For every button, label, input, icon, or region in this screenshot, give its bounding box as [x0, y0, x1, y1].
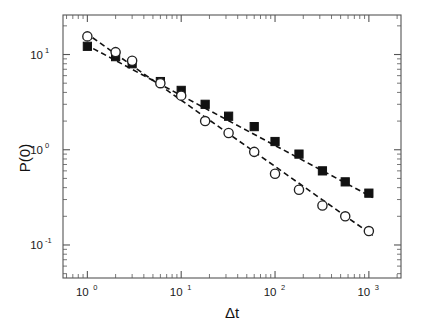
- x-tick-label-2-exponent: 2: [281, 283, 285, 292]
- x-tick-label-1-exponent: 1: [187, 283, 191, 292]
- x-tick-label-3-exponent: 3: [375, 283, 379, 292]
- marker-square: [341, 178, 349, 186]
- marker-square: [271, 137, 279, 145]
- y-tick-label-0-mantissa: 10: [30, 49, 43, 61]
- marker-square: [318, 167, 326, 175]
- x-tick-label-0-exponent: 0: [93, 283, 97, 292]
- marker-square: [201, 100, 209, 108]
- marker-circle: [111, 48, 120, 57]
- marker-circle: [156, 79, 165, 88]
- marker-circle: [177, 91, 186, 100]
- plot-background: [0, 0, 430, 334]
- y-tick-label-2-exponent: -1: [45, 236, 52, 245]
- x-axis-title: Δt: [225, 304, 240, 321]
- marker-square: [83, 42, 91, 50]
- marker-circle: [364, 226, 373, 235]
- x-tick-label-2-mantissa: 10: [264, 286, 277, 298]
- y-tick-label-0-exponent: 1: [45, 46, 49, 55]
- marker-circle: [294, 185, 303, 194]
- x-tick-label-1-mantissa: 10: [170, 286, 183, 298]
- marker-circle: [128, 56, 137, 65]
- log-log-scatter-plot: 100101102103 10110010-1 Δt P(0): [0, 0, 430, 334]
- marker-circle: [270, 169, 279, 178]
- marker-circle: [201, 116, 210, 125]
- marker-square: [365, 189, 373, 197]
- marker-circle: [224, 128, 233, 137]
- marker-square: [250, 123, 258, 131]
- marker-circle: [250, 147, 259, 156]
- y-tick-label-2-mantissa: 10: [30, 239, 43, 251]
- marker-circle: [318, 201, 327, 210]
- marker-circle: [341, 212, 350, 221]
- y-tick-label-1-exponent: 0: [45, 141, 49, 150]
- marker-square: [224, 112, 232, 120]
- y-axis-title: P(0): [16, 144, 33, 172]
- marker-circle: [83, 32, 92, 41]
- x-tick-label-3-mantissa: 10: [357, 286, 370, 298]
- x-tick-label-0-mantissa: 10: [76, 286, 89, 298]
- figure-panel: 100101102103 10110010-1 Δt P(0): [0, 0, 430, 334]
- marker-square: [295, 150, 303, 158]
